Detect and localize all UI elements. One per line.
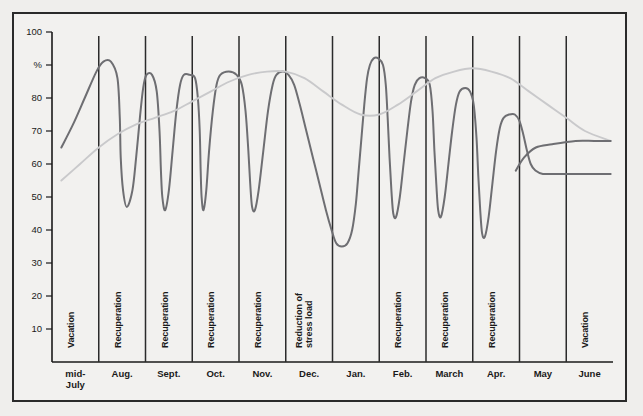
y-axis-ticks	[46, 32, 52, 329]
period-label: Recuperation	[253, 292, 263, 348]
chart-plot-area	[0, 0, 643, 416]
period-label: Reduction ofstress load	[294, 293, 314, 348]
y-axis-tick-label: 60	[16, 158, 42, 169]
data-series-group	[61, 58, 610, 247]
period-label: Vacation	[66, 312, 76, 348]
y-axis-tick-label: 50	[16, 191, 42, 202]
y-axis-tick-label: 10	[16, 323, 42, 334]
period-label: Recuperation	[393, 292, 403, 348]
y-axis-tick-label: 100	[16, 26, 42, 37]
period-label: Recuperation	[487, 292, 497, 348]
period-label: Recuperation	[440, 292, 450, 348]
y-axis-tick-label: 20	[16, 290, 42, 301]
period-label: Recuperation	[160, 292, 170, 348]
period-label: Vacation	[580, 312, 590, 348]
y-axis-tick-label: 80	[16, 92, 42, 103]
series-line-upper-plateau	[516, 141, 611, 171]
y-axis-tick-label: 70	[16, 125, 42, 136]
y-axis-tick-label: 30	[16, 257, 42, 268]
period-label: Recuperation	[206, 292, 216, 348]
y-axis-tick-label: %	[16, 59, 42, 70]
period-label: Recuperation	[113, 292, 123, 348]
y-axis-tick-label: 40	[16, 224, 42, 235]
x-axis-tick-label: June	[560, 368, 620, 379]
